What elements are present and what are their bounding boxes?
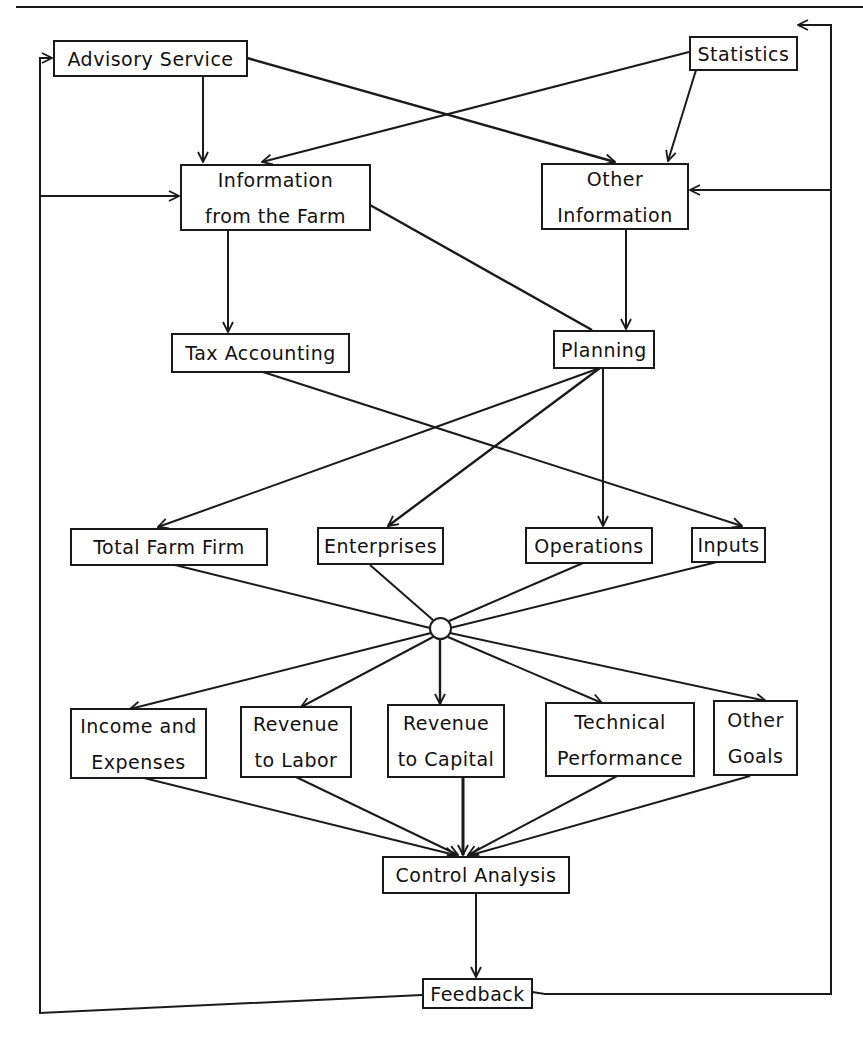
farm-management-flowchart: Advisory Service Statistics Information …: [0, 0, 863, 1043]
node-label: Inputs: [697, 530, 759, 560]
node-label: Total Farm Firm: [93, 532, 245, 562]
node-label-line-1: Technical: [574, 704, 666, 740]
node-other-goals: Other Goals: [713, 700, 798, 776]
node-label-line-2: Expenses: [91, 744, 186, 780]
node-other-information: Other Information: [541, 163, 689, 230]
node-control-analysis: Control Analysis: [382, 856, 570, 894]
node-label-line-1: Other: [587, 161, 643, 197]
node-label: Feedback: [430, 979, 524, 1009]
node-label: Control Analysis: [395, 860, 556, 890]
node-information-from-the-farm: Information from the Farm: [180, 164, 371, 231]
node-revenue-to-labor: Revenue to Labor: [240, 706, 352, 778]
node-label: Statistics: [698, 39, 790, 69]
node-total-farm-firm: Total Farm Firm: [70, 528, 268, 566]
node-label: Tax Accounting: [185, 338, 335, 368]
node-label-line-2: to Capital: [398, 741, 495, 777]
node-statistics: Statistics: [689, 36, 798, 71]
node-operations: Operations: [525, 527, 653, 564]
node-label: Advisory Service: [67, 44, 233, 74]
node-label-line-1: Income and: [80, 708, 197, 744]
node-label-line-1: Other: [727, 702, 783, 738]
node-revenue-to-capital: Revenue to Capital: [387, 704, 505, 778]
node-label-line-1: Information: [218, 162, 333, 198]
node-planning: Planning: [553, 330, 655, 369]
node-label-line-2: from the Farm: [205, 198, 346, 234]
node-label: Planning: [561, 335, 647, 365]
node-label-line-1: Revenue: [253, 706, 339, 742]
node-inputs: Inputs: [691, 527, 766, 563]
node-label-line-2: Performance: [557, 740, 683, 776]
node-label-line-2: to Labor: [255, 742, 338, 778]
node-tax-accounting: Tax Accounting: [171, 333, 350, 373]
node-label: Enterprises: [324, 531, 437, 561]
node-label: Operations: [534, 531, 643, 561]
node-label-line-2: Information: [557, 197, 672, 233]
node-label-line-2: Goals: [728, 738, 784, 774]
node-label-line-1: Revenue: [403, 705, 489, 741]
junction-circle: [429, 617, 452, 640]
node-technical-performance: Technical Performance: [545, 702, 695, 777]
node-enterprises: Enterprises: [317, 527, 444, 565]
node-advisory-service: Advisory Service: [53, 40, 248, 77]
node-income-and-expenses: Income and Expenses: [70, 708, 207, 779]
node-feedback: Feedback: [422, 978, 533, 1009]
